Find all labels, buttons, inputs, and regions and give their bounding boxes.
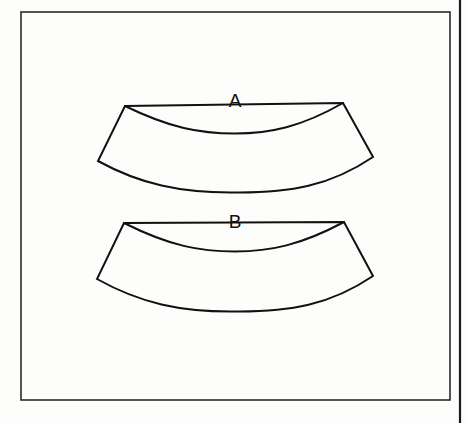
diagram-svg: A B xyxy=(0,0,467,423)
shape-b-label: B xyxy=(229,211,242,232)
figure-canvas: A B xyxy=(0,0,467,423)
shape-a-label: A xyxy=(229,90,242,111)
